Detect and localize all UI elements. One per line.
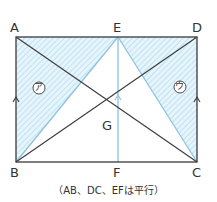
- point-label-a: A: [10, 21, 19, 34]
- point-label-f: F: [113, 166, 120, 179]
- point-label-b: B: [10, 166, 19, 179]
- caption: （AB、DC、EFは平行）: [0, 182, 217, 197]
- point-label-g: G: [102, 119, 112, 132]
- region-label-left: ア: [34, 83, 43, 92]
- geometry-figure: [0, 0, 217, 202]
- point-label-e: E: [113, 21, 121, 34]
- point-label-c: C: [192, 166, 201, 179]
- region-label-right: ウ: [175, 82, 184, 91]
- point-label-d: D: [192, 21, 202, 34]
